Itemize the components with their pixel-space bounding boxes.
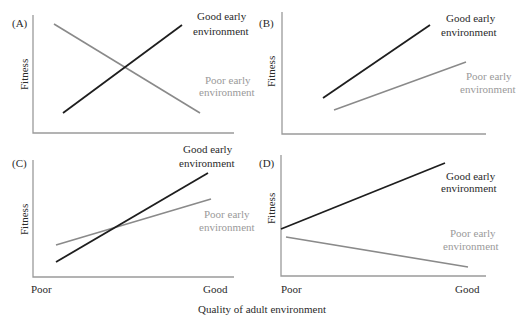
panel-a-poor-label-2: environment bbox=[199, 86, 255, 98]
panel-b-label: (B) bbox=[259, 17, 274, 30]
panel-c-good-label-1: Good early bbox=[183, 143, 233, 155]
panel-a-good-label-1: Good early bbox=[197, 10, 247, 22]
panel-c-tick-good: Good bbox=[203, 283, 228, 295]
panel-a-ylabel: Fitness bbox=[18, 59, 30, 90]
panel-a-poor-line bbox=[54, 24, 200, 113]
panel-a-good-line bbox=[63, 25, 182, 113]
panel-d-poor-label-2: environment bbox=[443, 240, 499, 252]
panel-a-poor-label-1: Poor early bbox=[205, 74, 251, 86]
panel-c-label: (C) bbox=[12, 157, 27, 170]
panel-c-poor-label-2: environment bbox=[199, 221, 255, 233]
panel-b-ylabel: Fitness bbox=[265, 56, 277, 87]
panel-c: (C) Fitness Good early environment Poor … bbox=[12, 143, 255, 295]
panel-b-good-label-2: environment bbox=[441, 26, 497, 38]
panel-b-poor-label-1: Poor early bbox=[466, 70, 512, 82]
panel-a: (A) Fitness Good early environment Poor … bbox=[12, 10, 255, 133]
panel-c-good-label-2: environment bbox=[179, 157, 235, 169]
panel-c-poor-label-1: Poor early bbox=[204, 208, 250, 220]
panel-a-label: (A) bbox=[12, 17, 28, 30]
x-axis-title: Quality of adult environment bbox=[198, 303, 326, 315]
panel-c-good-line bbox=[56, 173, 208, 262]
panel-b-poor-line bbox=[334, 62, 466, 110]
panel-b-good-label-1: Good early bbox=[446, 12, 496, 24]
panel-d: (D) Fitness Good early environment Poor … bbox=[259, 155, 499, 295]
panel-d-tick-poor: Poor bbox=[281, 283, 302, 295]
panel-d-ylabel: Fitness bbox=[265, 193, 277, 224]
panel-b-good-line bbox=[323, 25, 430, 98]
panel-b: (B) Fitness Good early environment Poor … bbox=[259, 12, 516, 134]
panel-c-tick-poor: Poor bbox=[31, 283, 52, 295]
panel-d-label: (D) bbox=[259, 157, 275, 170]
figure: (A) Fitness Good early environment Poor … bbox=[0, 0, 524, 324]
panel-a-good-label-2: environment bbox=[193, 25, 249, 37]
panel-c-poor-line bbox=[56, 199, 211, 245]
panel-d-good-label-2: environment bbox=[441, 182, 497, 194]
panel-d-good-label-1: Good early bbox=[446, 170, 496, 182]
panel-b-poor-label-2: environment bbox=[460, 83, 516, 95]
panel-d-good-line bbox=[281, 163, 445, 229]
panel-d-poor-line bbox=[286, 237, 468, 267]
panel-c-ylabel: Fitness bbox=[18, 204, 30, 235]
panel-d-tick-good: Good bbox=[455, 283, 480, 295]
panel-d-poor-label-1: Poor early bbox=[450, 227, 496, 239]
